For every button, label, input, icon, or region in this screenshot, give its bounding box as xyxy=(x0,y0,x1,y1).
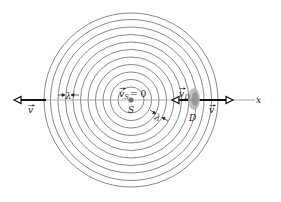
wave-velocity-right-label: v xyxy=(209,104,216,115)
axis-label-x: x xyxy=(256,95,261,105)
diagram-canvas: λ λ v S = 0 S v D D v xyxy=(0,0,281,202)
detector-velocity-label: v D xyxy=(179,87,191,101)
arrowhead-detector-icon xyxy=(172,97,179,104)
doppler-diagram: λ λ v S = 0 S v D D v xyxy=(0,0,281,202)
svg-text:v: v xyxy=(28,105,33,115)
detector-ear-icon xyxy=(188,88,200,110)
wavelength-label-left: λ xyxy=(65,91,72,101)
source-velocity-label: v S = 0 xyxy=(119,87,146,101)
arrowhead-right-icon xyxy=(226,97,233,104)
svg-text:S: S xyxy=(125,93,130,101)
svg-text:v: v xyxy=(209,105,214,115)
wave-velocity-left-label: v xyxy=(28,104,35,115)
svg-text:= 0: = 0 xyxy=(130,89,146,99)
source-label: S xyxy=(128,105,134,115)
detector-label: D xyxy=(188,113,196,123)
arrowhead-left-icon xyxy=(14,97,21,104)
svg-text:v: v xyxy=(179,89,184,99)
svg-text:v: v xyxy=(119,89,124,99)
svg-text:D: D xyxy=(184,93,191,101)
